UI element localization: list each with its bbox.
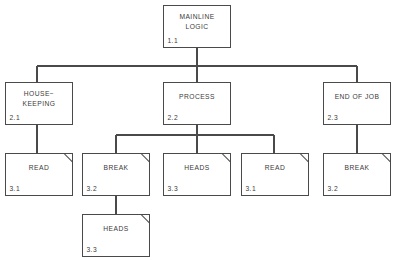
node-label: READ <box>6 163 72 173</box>
node-id: 3.2 <box>328 185 339 192</box>
node-id: 2.2 <box>168 114 179 121</box>
node-break-3-2-right[interactable]: BREAK 3.2 <box>323 153 391 196</box>
node-label: HEADS <box>164 163 230 173</box>
node-id: 3.1 <box>246 185 257 192</box>
node-end-of-job[interactable]: END OF JOB 2.3 <box>323 82 391 125</box>
node-id: 2.1 <box>10 114 21 121</box>
node-id: 3.1 <box>10 185 21 192</box>
node-process[interactable]: PROCESS 2.2 <box>163 82 231 125</box>
node-break-3-2-middle[interactable]: BREAK 3.2 <box>82 153 150 196</box>
node-id: 3.3 <box>87 246 98 253</box>
node-read-3-1-right[interactable]: READ 3.1 <box>241 153 309 196</box>
node-mainline-logic[interactable]: MAINLINE LOGIC 1.1 <box>163 5 231 48</box>
node-label: HEADS <box>83 224 149 234</box>
node-heads-3-3-bottom[interactable]: HEADS 3.3 <box>82 214 150 257</box>
node-id: 2.3 <box>328 114 339 121</box>
node-label: END OF JOB <box>324 92 390 102</box>
node-label: MAINLINE LOGIC <box>164 12 230 31</box>
node-id: 3.3 <box>168 185 179 192</box>
node-id: 3.2 <box>87 185 98 192</box>
node-label: HOUSE− KEEPING <box>6 89 72 108</box>
node-house-keeping[interactable]: HOUSE− KEEPING 2.1 <box>5 82 73 125</box>
node-label: PROCESS <box>164 92 230 102</box>
node-heads-3-3-middle[interactable]: HEADS 3.3 <box>163 153 231 196</box>
node-label: BREAK <box>83 163 149 173</box>
node-label: READ <box>242 163 308 173</box>
node-label: BREAK <box>324 163 390 173</box>
node-read-3-1-left[interactable]: READ 3.1 <box>5 153 73 196</box>
structure-chart-diagram: MAINLINE LOGIC 1.1 HOUSE− KEEPING 2.1 PR… <box>0 0 398 260</box>
node-id: 1.1 <box>168 37 179 44</box>
